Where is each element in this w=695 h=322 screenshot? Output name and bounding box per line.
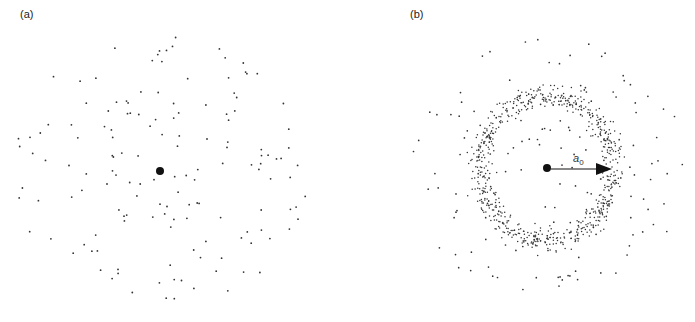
panel-a-random-points bbox=[18, 37, 307, 300]
arrow-label-a0: a0 bbox=[573, 152, 584, 167]
arrow-head-icon bbox=[596, 163, 612, 175]
figure-canvas: a0 bbox=[0, 0, 695, 322]
radius-arrow: a0 bbox=[551, 152, 612, 175]
panel-b-ring-points bbox=[413, 39, 684, 291]
